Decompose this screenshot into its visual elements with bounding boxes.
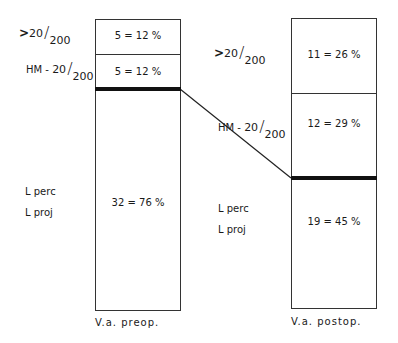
preop-divider: [95, 54, 181, 55]
postop-row2-value: 12 = 29 %: [291, 118, 377, 129]
postop-row2-label: HM - 20/200: [218, 116, 286, 135]
preop-row2-label: HM - 20/200: [26, 58, 94, 77]
preop-threshold-line: [95, 87, 181, 91]
postop-caption: V.a. postop.: [291, 316, 361, 327]
postop-row1-value: 11 = 26 %: [291, 49, 377, 60]
preop-row3-label-proj: L proj: [25, 207, 53, 218]
postop-row3-value: 19 = 45 %: [291, 216, 377, 227]
postop-row3-label-perc: L perc: [218, 203, 249, 214]
postop-row1-label: >20/200: [214, 42, 265, 61]
preop-caption: V.a. preop.: [95, 317, 159, 328]
postop-divider: [291, 93, 377, 94]
preop-bar: [95, 19, 181, 311]
postop-row3-label-proj: L proj: [218, 224, 246, 235]
preop-row3-label-perc: L perc: [25, 186, 56, 197]
postop-threshold-line: [291, 176, 377, 180]
preop-row2-value: 5 = 12 %: [95, 66, 181, 77]
preop-row3-value: 32 = 76 %: [95, 197, 181, 208]
preop-row1-label: >20/200: [19, 22, 70, 41]
postop-bar: [291, 18, 377, 309]
preop-row1-value: 5 = 12 %: [95, 30, 181, 41]
